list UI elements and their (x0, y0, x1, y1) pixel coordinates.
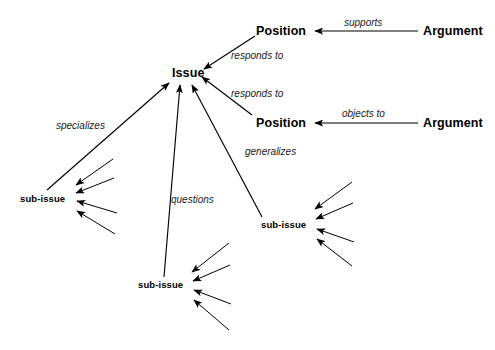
edge-fan-sub-issue-left (76, 159, 117, 234)
node-position-1[interactable]: Position (256, 25, 306, 38)
edge-label-questions: questions (171, 195, 214, 205)
edge-specializes (47, 83, 169, 190)
node-issue[interactable]: Issue (172, 67, 204, 80)
edge-fan-sub-issue-right (315, 182, 354, 266)
edge-label-objects-to: objects to (342, 109, 385, 119)
edge-fan-sub-issue-bottom (192, 243, 231, 330)
node-argument-2[interactable]: Argument (423, 117, 483, 130)
edge-label-generalizes: generalizes (245, 147, 296, 157)
edge-label-specializes: specializes (56, 121, 105, 131)
diagram-canvas: Issue Position Position Argument Argumen… (0, 0, 495, 350)
node-position-2[interactable]: Position (256, 117, 306, 130)
edge-label-responds-to-1: responds to (231, 51, 283, 61)
node-sub-issue-right[interactable]: sub-issue (261, 220, 306, 230)
node-argument-1[interactable]: Argument (423, 25, 483, 38)
edge-label-responds-to-2: responds to (231, 89, 283, 99)
node-sub-issue-left[interactable]: sub-issue (20, 194, 65, 204)
edge-questions (164, 85, 180, 277)
edge-label-supports: supports (344, 18, 382, 28)
node-sub-issue-bottom[interactable]: sub-issue (138, 280, 183, 290)
